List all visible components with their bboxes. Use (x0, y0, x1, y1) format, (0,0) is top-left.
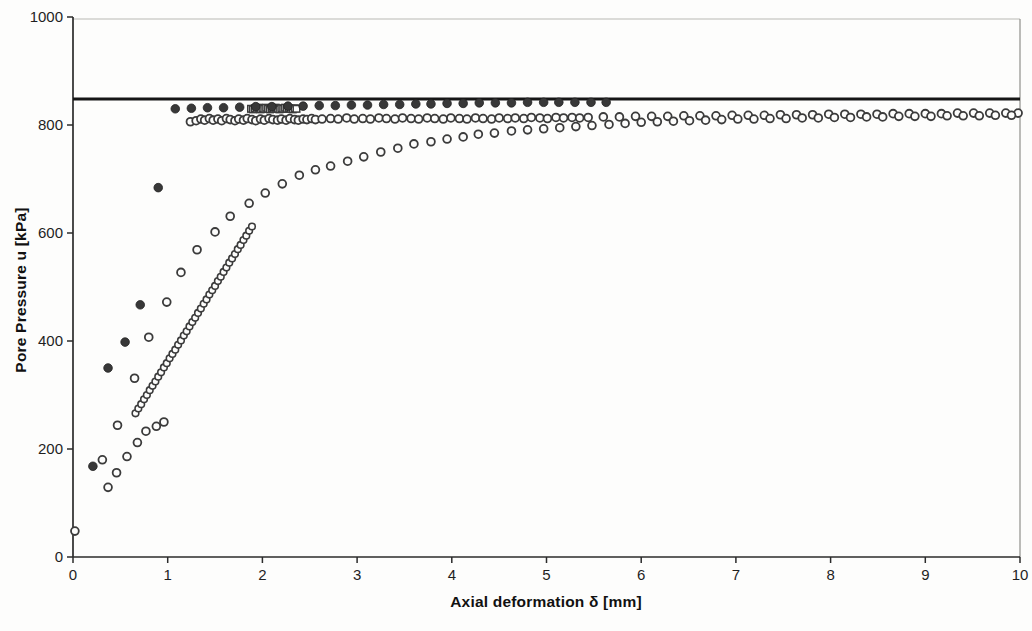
data-point (245, 199, 253, 207)
data-point (427, 138, 435, 146)
data-point (363, 101, 372, 110)
data-point (911, 112, 919, 120)
data-point (447, 114, 455, 122)
data-point (318, 115, 326, 123)
data-point (798, 114, 806, 122)
data-point (975, 112, 983, 120)
data-point (847, 114, 855, 122)
data-point (571, 98, 580, 107)
data-point (193, 246, 201, 254)
data-point (136, 301, 145, 310)
data-point (315, 101, 324, 110)
data-point (782, 115, 790, 123)
data-point (410, 140, 418, 148)
data-point (556, 124, 564, 132)
data-point (508, 127, 516, 135)
x-tick-label: 9 (921, 566, 929, 583)
data-point (121, 338, 130, 347)
data-point (491, 99, 500, 108)
y-tick-label: 600 (38, 224, 63, 241)
data-point (584, 114, 592, 122)
data-point (572, 123, 580, 131)
series-open-circle-low-scatter (71, 418, 168, 535)
y-tick-label: 200 (38, 440, 63, 457)
data-point (568, 114, 576, 122)
data-point (145, 333, 153, 341)
data-point (637, 118, 645, 126)
x-tick-label: 10 (1012, 566, 1029, 583)
data-point (395, 100, 404, 109)
data-point (154, 183, 163, 192)
data-point (540, 125, 548, 133)
data-point (359, 115, 367, 123)
data-point (171, 105, 180, 114)
data-point (163, 298, 171, 306)
data-point (544, 115, 552, 123)
data-point (504, 115, 512, 123)
x-tick-label: 1 (164, 566, 172, 583)
data-point (394, 144, 402, 152)
x-tick-label: 7 (732, 566, 740, 583)
data-point (312, 166, 320, 174)
data-point (331, 101, 340, 110)
y-tick-label: 1000 (30, 8, 63, 25)
x-tick-label: 8 (826, 566, 834, 583)
data-point (552, 114, 560, 122)
data-point (511, 114, 519, 122)
data-point (177, 269, 185, 277)
y-tick-label: 800 (38, 116, 63, 133)
data-point (523, 98, 532, 107)
x-tick-label: 4 (448, 566, 456, 583)
data-point (539, 98, 548, 107)
data-point (475, 99, 484, 108)
data-point (71, 527, 79, 535)
data-point (479, 115, 487, 123)
data-point (943, 112, 951, 120)
data-point (669, 117, 677, 125)
data-point (474, 130, 482, 138)
data-point (431, 115, 439, 123)
data-point (187, 104, 196, 113)
data-point (366, 115, 374, 123)
y-tick-label: 400 (38, 332, 63, 349)
data-point (491, 129, 499, 137)
data-point (261, 189, 269, 197)
data-point (587, 98, 596, 107)
data-point (766, 115, 774, 123)
data-point (226, 212, 234, 220)
data-point (524, 126, 532, 134)
data-point (104, 364, 113, 373)
data-point (334, 115, 342, 123)
data-point (249, 223, 256, 230)
data-point (495, 114, 503, 122)
data-point (375, 114, 383, 122)
data-point (879, 113, 887, 121)
data-point (750, 115, 758, 123)
data-point (211, 228, 219, 236)
data-point (123, 453, 131, 461)
chart-canvas: 02004006008001000012345678910 (0, 0, 1032, 631)
data-point (133, 439, 141, 447)
data-point (472, 114, 480, 122)
data-point (152, 422, 160, 430)
data-point (459, 133, 467, 141)
data-point (653, 118, 661, 126)
series-filled-dots (89, 98, 611, 471)
data-point (443, 135, 451, 143)
data-point (344, 157, 352, 165)
x-axis-title: Axial deformation δ [mm] (450, 593, 642, 611)
data-point (599, 113, 607, 121)
data-point (104, 483, 112, 491)
data-point (299, 102, 308, 111)
data-point (295, 171, 303, 179)
data-point (343, 114, 351, 122)
data-point (702, 116, 710, 124)
data-point (391, 115, 399, 123)
data-point (507, 99, 516, 108)
data-point (399, 114, 407, 122)
x-tick-label: 0 (69, 566, 77, 583)
y-tick-label: 0 (55, 548, 63, 565)
data-point (455, 115, 463, 123)
data-point (114, 421, 122, 429)
data-point (927, 112, 935, 120)
